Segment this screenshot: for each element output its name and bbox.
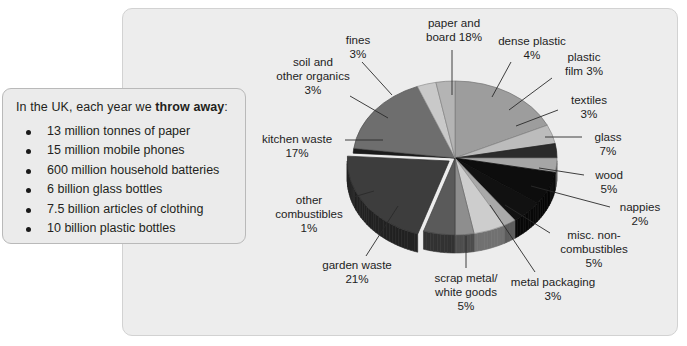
callout-list: 13 million tonnes of paper15 million mob… <box>16 122 237 238</box>
pie-slice-side <box>448 235 452 253</box>
pie-slice-side <box>398 228 401 247</box>
pie-label-scrap-metal-white-goods: scrap metal/ white goods 5% <box>420 271 512 314</box>
pie-slice-side <box>395 226 398 245</box>
pie-slice-side <box>369 208 371 228</box>
pie-slice-side <box>365 204 367 224</box>
pie-label-line: 5% <box>420 299 512 313</box>
pie-label-line: 17% <box>251 146 343 160</box>
pie-label-line: 7% <box>584 144 632 158</box>
pie-slice-side <box>389 223 392 243</box>
pie-label-line: metal packaging <box>505 275 601 289</box>
pie-label-line: nappies <box>612 200 668 214</box>
pie-label-line: textiles <box>560 93 618 107</box>
callout-heading-prefix: In the UK, each year we <box>16 100 155 114</box>
pie-slice-side <box>384 220 387 240</box>
pie-slice-side <box>408 231 411 250</box>
pie-slice-side <box>495 228 498 247</box>
callout-list-item: 7.5 billion articles of clothing <box>16 200 237 219</box>
pie-slice-side <box>481 232 484 251</box>
pie-slices <box>347 81 557 253</box>
pie-label-line: white goods <box>420 285 512 299</box>
pie-label-line: soil and <box>262 55 364 69</box>
pie-label-plastic-film: plastic film 3% <box>553 50 615 78</box>
pie-label-line: combustibles <box>271 207 347 221</box>
pie-label-line: 1% <box>271 221 347 235</box>
pie-label-line: glass <box>584 130 632 144</box>
pie-label-metal-packaging: metal packaging 3% <box>505 275 601 303</box>
pie-label-line: garden waste <box>313 258 401 272</box>
pie-label-line: other organics <box>262 69 364 83</box>
pie-slice-side <box>444 235 448 253</box>
pie-slice-side <box>392 225 395 244</box>
pie-slice-side <box>526 211 529 231</box>
pie-label-wood: wood 5% <box>586 168 632 196</box>
pie-slice-side <box>521 215 524 235</box>
pie-slice-side <box>373 212 375 232</box>
pie-label-kitchen-waste: kitchen waste 17% <box>251 132 343 160</box>
pie-slice-side <box>381 218 384 238</box>
pie-label-line: paper and <box>408 16 500 30</box>
pie-slice-side <box>434 233 437 252</box>
pie-slice-side <box>456 235 460 253</box>
pie-label-line: 3% <box>505 289 601 303</box>
pie-label-textiles: textiles 3% <box>560 93 618 121</box>
pie-slice-side <box>474 233 477 252</box>
pie-slice-side <box>455 235 456 253</box>
pie-label-line: 5% <box>586 182 632 196</box>
pie-slice-side <box>509 222 512 241</box>
pie-slice-side <box>451 235 455 253</box>
pie-label-line: plastic <box>553 50 615 64</box>
leader-plastic-film <box>509 78 552 110</box>
pie-slice-side <box>427 232 430 251</box>
callout-heading: In the UK, each year we throw away: <box>16 100 237 115</box>
callout-list-item: 15 million mobile phones <box>16 141 237 160</box>
pie-slice-side <box>498 227 501 246</box>
pie-slice-side <box>371 210 373 230</box>
callout-box: In the UK, each year we throw away: 13 m… <box>2 88 246 244</box>
pie-slice-side <box>535 203 537 223</box>
leader-fines <box>362 62 392 95</box>
callout-list-item: 6 billion glass bottles <box>16 180 237 199</box>
pie-slice-side <box>488 230 491 249</box>
pie-slice-side <box>518 217 521 237</box>
pie-label-line: 3% <box>262 83 364 97</box>
pie-slice-side <box>376 214 379 234</box>
pie-slice-side <box>401 229 404 248</box>
pie-label-line: combustibles <box>552 242 636 256</box>
callout-heading-bold: throw away <box>155 100 224 114</box>
pie-slice-side <box>423 231 426 250</box>
callout-list-item: 13 million tonnes of paper <box>16 122 237 141</box>
pie-label-other-combustibles: other combustibles 1% <box>271 193 347 236</box>
pie-label-soil-and-other-organics: soil and other organics 3% <box>262 55 364 98</box>
pie-slice-side <box>478 232 481 251</box>
pie-slice-side <box>467 234 471 252</box>
pie-label-line: kitchen waste <box>251 132 343 146</box>
pie-slice-side <box>437 234 441 252</box>
pie-label-line: 21% <box>313 272 401 286</box>
pie-slice-side <box>386 222 389 242</box>
pie-label-glass: glass 7% <box>584 130 632 158</box>
pie-slice-side <box>414 233 417 252</box>
pie-label-nappies: nappies 2% <box>612 200 668 228</box>
pie-slice-side <box>484 231 487 250</box>
pie-slice-side <box>491 229 494 248</box>
pie-slice-side <box>471 234 475 252</box>
pie-label-line: 5% <box>552 256 636 270</box>
callout-list-item: 600 million household batteries <box>16 161 237 180</box>
callout-heading-suffix: : <box>224 100 228 114</box>
pie-label-garden-waste: garden waste 21% <box>313 258 401 286</box>
pie-label-line: fines <box>331 33 385 47</box>
pie-label-line: dense plastic <box>487 34 577 48</box>
pie-label-misc-non-combustibles: misc. non- combustibles 5% <box>552 228 636 271</box>
pie-label-line: other <box>271 193 347 207</box>
pie-label-line: misc. non- <box>552 228 636 242</box>
pie-slice-side <box>404 230 407 249</box>
callout-list-item: 10 billion plastic bottles <box>16 219 237 238</box>
pie-slice-side <box>411 232 414 251</box>
pie-slice-side <box>367 206 369 226</box>
pie-slice-side <box>515 219 518 239</box>
pie-slice-side <box>464 234 468 252</box>
pie-slice-side <box>512 220 515 240</box>
pie-slice-side <box>531 207 533 227</box>
pie-label-line: scrap metal/ <box>420 271 512 285</box>
